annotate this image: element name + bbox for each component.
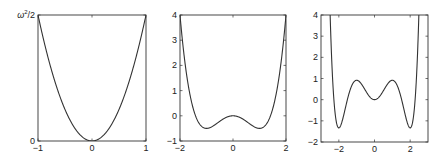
y-tick-label: −2 <box>308 137 318 147</box>
y-tick-label: 0 <box>172 111 177 121</box>
y-tick-label: −1 <box>167 136 177 146</box>
curve-doublewell <box>180 15 286 128</box>
y-tick-label: −1 <box>308 116 318 126</box>
y-tick-label: 3 <box>172 35 177 45</box>
y-tick-label: 1 <box>313 74 318 84</box>
panel-triple-well: −202−2−101234 <box>308 0 428 154</box>
panel-double-well: −202−101234 <box>167 10 289 153</box>
y-tick-label: 1 <box>172 86 177 96</box>
x-tick-label: 1 <box>143 143 148 153</box>
curve-harmonic <box>38 15 146 141</box>
figure: −1010ω2/2 −202−101234 −202−2−101234 <box>0 0 440 160</box>
axes-box <box>180 15 286 141</box>
y-tick-label: 4 <box>313 10 318 20</box>
x-tick-label: −2 <box>334 144 344 154</box>
x-tick-label: 0 <box>230 143 235 153</box>
y-tick-label: ω2/2 <box>17 9 35 20</box>
x-tick-label: 2 <box>408 144 413 154</box>
y-tick-label: 0 <box>30 136 35 146</box>
panel-harmonic: −1010ω2/2 <box>17 9 148 153</box>
x-tick-label: 0 <box>89 143 94 153</box>
y-tick-label: 3 <box>313 31 318 41</box>
y-tick-label: 0 <box>313 95 318 105</box>
curve-triplewell <box>321 0 428 128</box>
y-tick-label: 4 <box>172 10 177 20</box>
y-tick-label: 2 <box>313 52 318 62</box>
x-tick-label: 2 <box>283 143 288 153</box>
y-tick-label: 2 <box>172 60 177 70</box>
x-tick-label: 0 <box>372 144 377 154</box>
